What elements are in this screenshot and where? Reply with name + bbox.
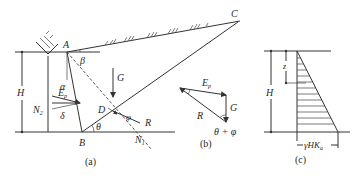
ep-normal-extension (52, 103, 80, 109)
n1-label: N1 (134, 134, 145, 146)
force-g-label: G (230, 102, 237, 113)
point-c-label: C (231, 8, 238, 19)
point-d-label: D (97, 104, 106, 115)
slip-plane (82, 22, 238, 132)
force-triangle-arc (188, 90, 190, 95)
theta-phi-arc (220, 115, 226, 118)
theta-plus-phi-label: θ + φ (214, 126, 237, 137)
retaining-wall-diagram: A β α C G H Ep δ N2 D B θ φ R N1 (a) Ep … (0, 0, 364, 181)
height-label: H (16, 87, 25, 98)
theta-arc (92, 125, 94, 132)
ground-hatch (105, 23, 208, 45)
force-r-label: R (196, 110, 203, 121)
figure-c: H z γHKa (c) (264, 51, 350, 166)
figure-c-caption: (c) (295, 154, 306, 166)
pressure-triangle-edge (297, 51, 338, 132)
wall-crest-hatch (36, 31, 58, 54)
height-label: H (265, 87, 274, 98)
point-a-label: A (62, 39, 70, 50)
force-ep-label: Ep (201, 77, 211, 89)
weight-label: G (117, 72, 124, 83)
figure-a-caption: (a) (85, 156, 96, 168)
figure-b: Ep G R θ + φ (b) (180, 77, 237, 150)
point-b-label: B (79, 137, 85, 148)
reaction-label: R (144, 117, 151, 128)
ep-label: Ep (57, 87, 67, 99)
backfill-surface (67, 21, 240, 52)
phi-label: φ (126, 112, 131, 122)
delta-label: δ (60, 110, 65, 121)
force-ep (180, 88, 226, 95)
figure-b-caption: (b) (200, 138, 212, 150)
theta-label: θ (96, 121, 101, 132)
n2-label: N2 (32, 104, 43, 116)
beta-label: β (79, 55, 85, 66)
